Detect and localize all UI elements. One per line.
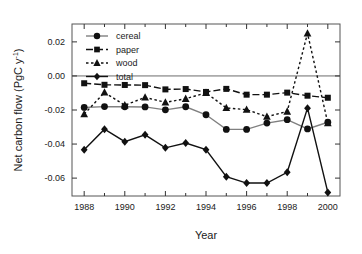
x-tick-label: 1988 [74,202,94,212]
data-point-square [122,82,128,88]
data-point-circle [284,116,291,123]
y-axis-title-main: Net carbon flow (PgC y [12,58,24,172]
data-point-circle [304,126,311,133]
x-tick-label: 1990 [115,202,135,212]
y-tick-label: 0.02 [47,37,65,47]
data-point-square [101,82,107,88]
x-tick-label: 2000 [318,202,338,212]
data-point-square [284,90,290,96]
y-tick-label: -0.06 [44,173,65,183]
line-chart: 0.020.00-0.02-0.04-0.06 1988199019921994… [0,0,362,254]
data-point-square [81,80,87,86]
y-axis-title-close: ) [12,48,24,52]
legend-label-cereal: cereal [116,31,141,41]
x-tick-label: 1998 [277,202,297,212]
svg-text:Net carbon flow (PgC y-1): Net carbon flow (PgC y-1) [12,48,24,171]
data-point-square [264,92,270,98]
y-axis-title: Net carbon flow (PgC y-1) [12,48,24,171]
data-point-square [244,92,250,98]
x-tick-label: 1996 [237,202,257,212]
data-point-square [94,47,100,53]
data-point-circle [264,120,271,127]
data-point-circle [182,103,189,110]
data-point-square [325,95,331,101]
data-point-circle [243,126,250,133]
data-point-square [305,93,311,99]
y-tick-label: 0.00 [47,71,65,81]
data-point-circle [162,106,169,113]
data-point-circle [223,126,230,133]
x-tick-label: 1992 [155,202,175,212]
data-point-circle [81,104,88,111]
data-point-circle [203,111,210,118]
data-point-square [162,86,168,92]
data-point-square [223,86,229,92]
data-point-circle [94,33,100,39]
data-point-square [142,82,148,88]
legend-label-paper: paper [116,45,139,55]
data-point-circle [101,103,108,110]
data-point-circle [142,104,149,111]
legend-label-total: total [116,72,133,82]
y-tick-label: -0.04 [44,139,65,149]
legend-label-wood: wood [115,58,138,68]
x-axis-title: Year [195,229,218,241]
x-tick-label: 1994 [196,202,216,212]
plot-frame [72,24,340,196]
chart-figure: 0.020.00-0.02-0.04-0.06 1988199019921994… [0,0,362,254]
y-tick-label: -0.02 [44,105,65,115]
data-point-square [183,86,189,92]
